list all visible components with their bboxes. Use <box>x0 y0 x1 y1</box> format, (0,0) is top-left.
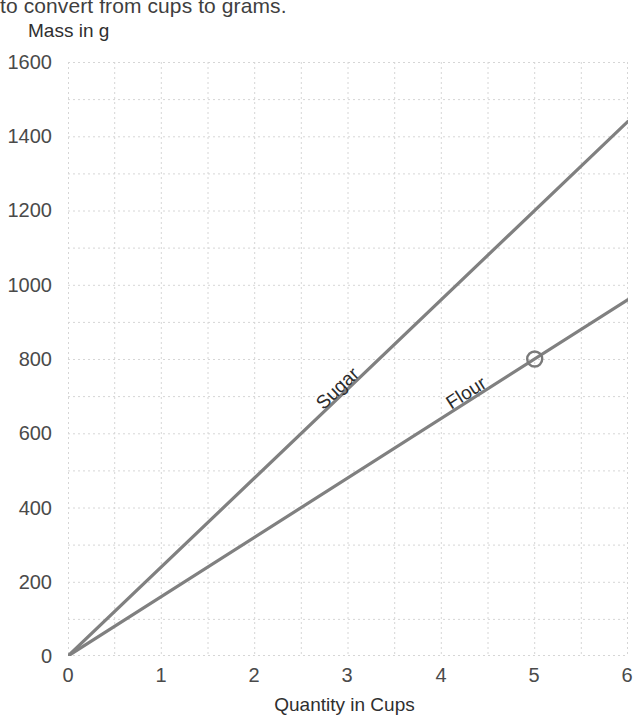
y-tick-1000: 1000 <box>0 274 52 297</box>
x-tick-6: 6 <box>607 664 639 687</box>
chart-svg <box>68 62 628 656</box>
x-tick-4: 4 <box>421 664 461 687</box>
y-tick-800: 800 <box>0 348 52 371</box>
prompt-text: to convert from cups to grams. <box>0 0 287 18</box>
x-axis-title-text: Quantity in Cups <box>224 694 414 715</box>
x-tick-0: 0 <box>48 664 88 687</box>
y-tick-200: 200 <box>0 571 52 594</box>
plot-area: Sugar Flour <box>68 62 628 656</box>
x-tick-5: 5 <box>514 664 554 687</box>
x-axis-title: Quantity in Cups <box>0 694 639 716</box>
y-axis-title: Mass in g <box>28 20 109 42</box>
x-tick-1: 1 <box>141 664 181 687</box>
chart-screenshot: to convert from cups to grams. Mass in g… <box>0 0 639 722</box>
y-tick-1400: 1400 <box>0 125 52 148</box>
y-tick-0: 0 <box>0 645 52 668</box>
y-tick-1600: 1600 <box>0 51 52 74</box>
y-tick-1200: 1200 <box>0 199 52 222</box>
x-tick-2: 2 <box>234 664 274 687</box>
y-tick-600: 600 <box>0 422 52 445</box>
grid-lines <box>68 62 628 656</box>
y-tick-400: 400 <box>0 497 52 520</box>
x-tick-3: 3 <box>327 664 367 687</box>
